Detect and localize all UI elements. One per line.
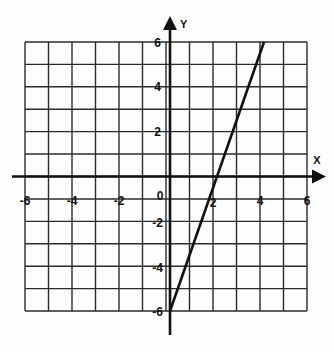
plot-area: -6 -4 -2 0 2 4 6 6 4 2 -2 -4 -6 Y X <box>0 0 334 352</box>
y-tick-label: -4 <box>152 261 163 275</box>
x-axis-label: X <box>313 154 321 166</box>
x-tick-label: -2 <box>114 194 125 208</box>
x-tick-label: 6 <box>304 194 311 208</box>
y-axis-arrow-icon <box>163 16 177 30</box>
y-tick-label: 2 <box>154 125 161 139</box>
x-tick-label: -4 <box>67 194 78 208</box>
x-axis-arrow-icon <box>312 170 326 184</box>
x-tick-label: 2 <box>210 196 217 210</box>
x-tick-label: -6 <box>20 194 31 208</box>
y-tick-label: 4 <box>154 80 161 94</box>
y-axis-label: Y <box>180 18 188 30</box>
y-tick-label: -6 <box>152 305 163 319</box>
y-tick-label: 6 <box>154 36 161 50</box>
x-tick-label: 0 <box>157 189 164 203</box>
x-tick-label: 4 <box>257 194 264 208</box>
coordinate-graph: -6 -4 -2 0 2 4 6 6 4 2 -2 -4 -6 Y X <box>0 0 334 352</box>
y-tick-label: -2 <box>152 216 163 230</box>
